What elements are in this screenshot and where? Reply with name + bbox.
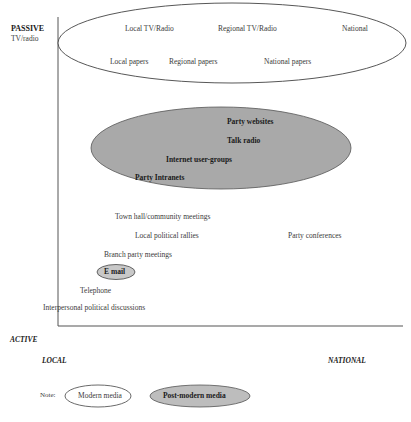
tv-radio-sublabel: TV/radio (11, 34, 39, 43)
modern-item: Local TV/Radio (125, 24, 174, 33)
email-label: E mail (104, 267, 125, 276)
interpersonal-item: Local political rallies (135, 231, 199, 240)
interpersonal-item: Town hall/community meetings (115, 212, 210, 221)
legend-modern-label: Modern media (78, 391, 122, 400)
interpersonal-item: Interpersonal political discussions (43, 303, 145, 312)
modern-item: Regional papers (169, 57, 218, 66)
postmodern-item: Internet user-groups (166, 155, 232, 164)
modern-media-ellipse (58, 3, 406, 83)
national-axis-label: NATIONAL (328, 356, 366, 365)
interpersonal-item: Branch party meetings (104, 250, 172, 259)
active-label: ACTIVE (10, 335, 38, 344)
legend-postmodern-label: Post-modern media (163, 391, 226, 400)
postmodern-item: Party websites (227, 117, 273, 126)
modern-item: Local papers (110, 57, 149, 66)
local-label: LOCAL (42, 356, 67, 365)
passive-label: PASSIVE (11, 24, 44, 33)
modern-item: Regional TV/Radio (218, 24, 277, 33)
modern-item: National (342, 24, 368, 33)
modern-item: National papers (264, 57, 311, 66)
interpersonal-item: Telephone (80, 286, 111, 295)
legend-note: Note: (40, 391, 56, 399)
interpersonal-item: Party conferences (288, 231, 342, 240)
postmodern-item: Party Intranets (135, 173, 184, 182)
postmodern-item: Talk radio (227, 136, 260, 145)
postmodern-media-ellipse (91, 107, 351, 189)
